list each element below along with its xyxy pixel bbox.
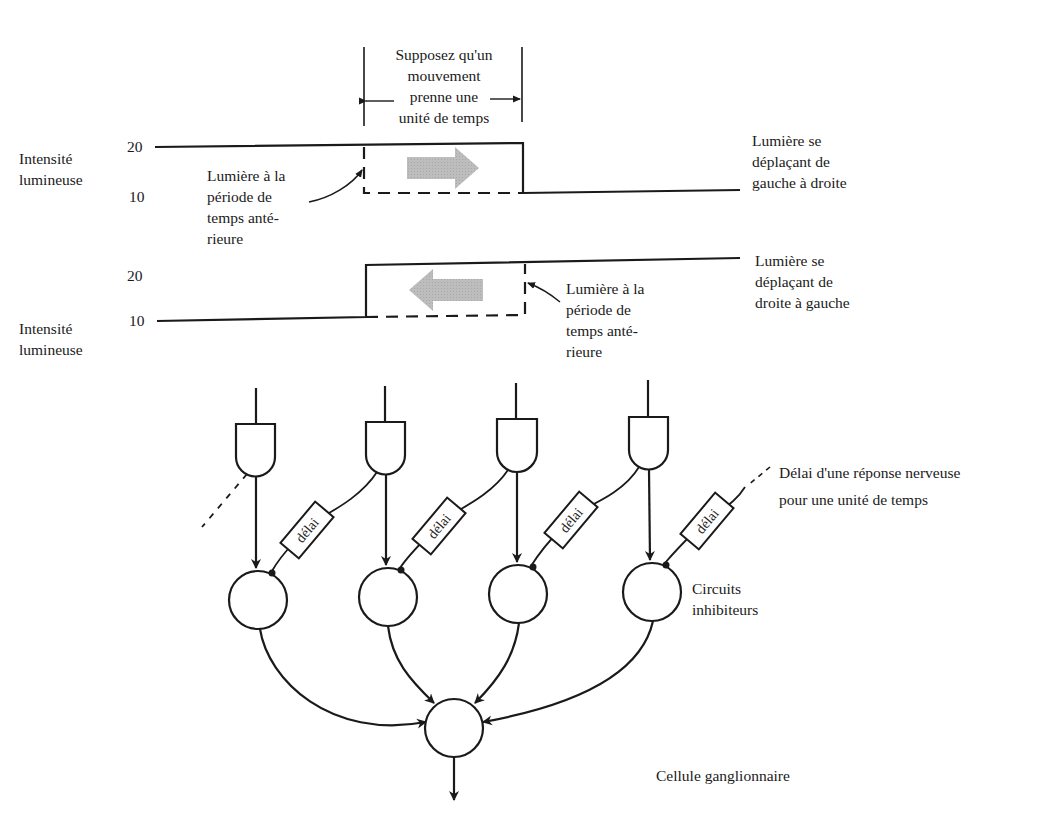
note-line: Lumière à la <box>566 278 644 299</box>
bottom-tick-10: 10 <box>129 310 145 331</box>
bottom-tick-20: 20 <box>127 265 143 286</box>
top-tick-20: 20 <box>127 136 143 157</box>
top-previous-light-note: Lumière à la période de temps anté- rieu… <box>207 165 285 249</box>
bottom-previous-light-note: Lumière à la période de temps anté- rieu… <box>566 278 644 362</box>
note-line: rieure <box>207 228 285 249</box>
gate-2 <box>366 386 405 475</box>
delay-box-3: délai <box>544 492 597 549</box>
delay-box-2: délai <box>412 498 465 555</box>
note-line: période de <box>207 186 285 207</box>
top-direction-label: Lumière se déplaçant de gauche à droite <box>752 130 847 193</box>
motion-detector-diagram: délai délai délai délai <box>0 0 1058 837</box>
inhibitory-label-line: Circuits <box>692 578 758 599</box>
note-line: temps anté- <box>566 320 644 341</box>
right-arrow-icon <box>407 147 479 189</box>
delay-box-1: délai <box>280 502 333 559</box>
y-axis-label-line: Intensité <box>19 148 83 169</box>
left-arrow-icon <box>409 269 483 311</box>
inhibitory-circuit-2 <box>359 568 417 626</box>
duration-note: Supposez qu'un mouvement prenne une unit… <box>372 44 516 128</box>
inhibitory-label: Circuits inhibiteurs <box>692 578 758 620</box>
top-y-axis-label: Intensité lumineuse <box>19 148 83 190</box>
direction-label-line: gauche à droite <box>752 172 847 193</box>
delay-note: Délai d'une réponse nerveuse pour une un… <box>779 459 960 513</box>
duration-note-line: Supposez qu'un <box>372 44 516 65</box>
gate-3 <box>497 383 537 472</box>
direction-label-line: droite à gauche <box>755 292 850 313</box>
duration-note-line: unité de temps <box>372 107 516 128</box>
synapse-dots <box>269 562 670 577</box>
direction-label-line: Lumière se <box>752 130 847 151</box>
top-tick-10: 10 <box>129 186 145 207</box>
y-axis-label-line: Intensité <box>19 318 83 339</box>
inhibitory-label-line: inhibiteurs <box>692 599 758 620</box>
direction-label-line: déplaçant de <box>752 151 847 172</box>
duration-note-line: mouvement <box>372 65 516 86</box>
direction-label-line: Lumière se <box>755 250 850 271</box>
bottom-y-axis-label: Intensité lumineuse <box>19 318 83 360</box>
gate-1 <box>236 388 275 477</box>
note-line: période de <box>566 299 644 320</box>
note-line: Lumière à la <box>207 165 285 186</box>
inhibitory-circuit-3 <box>489 565 547 623</box>
note-line: temps anté- <box>207 207 285 228</box>
y-axis-label-line: lumineuse <box>19 339 83 360</box>
gate-4 <box>629 380 668 470</box>
delay-note-line: Délai d'une réponse nerveuse <box>779 459 960 486</box>
ganglion-cell <box>425 699 483 757</box>
ganglion-label: Cellule ganglionnaire <box>656 765 790 786</box>
duration-note-line: prenne une <box>372 86 516 107</box>
inhibitory-circuit-1 <box>229 571 287 629</box>
bottom-direction-label: Lumière se déplaçant de droite à gauche <box>755 250 850 313</box>
direction-label-line: déplaçant de <box>755 271 850 292</box>
inhibitory-circuit-4 <box>623 563 681 621</box>
note-line: rieure <box>566 341 644 362</box>
y-axis-label-line: lumineuse <box>19 169 83 190</box>
delay-note-line: pour une unité de temps <box>779 486 960 513</box>
delay-box-4: délai <box>680 493 733 550</box>
